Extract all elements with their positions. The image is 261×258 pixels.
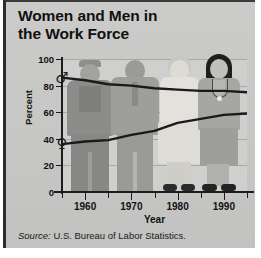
x-tick-1995: [247, 193, 248, 198]
y-tick-20: [56, 165, 62, 166]
x-axis-label: Year: [62, 214, 247, 225]
y-tick-label-100: 100: [24, 54, 54, 65]
chart-title-line-1: Women and Men in: [18, 7, 157, 24]
x-tick-1970: [131, 193, 132, 200]
chart-title-line-2: the Work Force: [18, 25, 243, 43]
x-tick-1990: [224, 193, 225, 200]
source-note: Source: U.S. Bureau of Labor Statistics.: [18, 230, 186, 241]
line-series-women: [62, 114, 247, 145]
chart-screenshot: Women and Men in the Work Force: [0, 0, 261, 258]
chart-card: Women and Men in the Work Force: [3, 0, 255, 248]
chart-title: Women and Men in the Work Force: [18, 7, 243, 43]
x-tick-label-1970: 1970: [120, 201, 142, 212]
x-tick-label-1980: 1980: [167, 201, 189, 212]
x-tick-1985: [201, 193, 202, 198]
x-tick-label-1990: 1990: [213, 201, 235, 212]
y-tick-60: [56, 112, 62, 113]
x-tick-1955: [62, 193, 63, 198]
y-tick-80: [56, 86, 62, 87]
series-overlay: [62, 59, 247, 192]
source-text: U.S. Bureau of Labor Statistics.: [53, 230, 186, 241]
line-series-men: [62, 78, 247, 93]
y-axis-label: Percent: [23, 78, 34, 138]
x-tick-1975: [155, 193, 156, 198]
y-tick-label-20: 20: [24, 160, 54, 171]
source-label: Source:: [18, 230, 51, 241]
y-tick-label-0: 0: [24, 187, 54, 198]
x-tick-1965: [108, 193, 109, 198]
x-tick-label-1960: 1960: [74, 201, 96, 212]
x-tick-1980: [178, 193, 179, 200]
y-tick-100: [56, 59, 62, 60]
y-axis-line: [61, 57, 63, 194]
x-tick-1960: [85, 193, 86, 200]
y-tick-40: [56, 139, 62, 140]
